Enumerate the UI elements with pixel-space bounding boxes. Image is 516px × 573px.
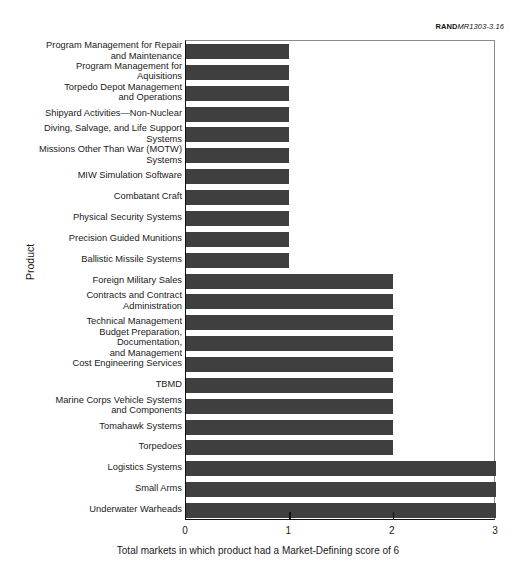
category-label: Tomahawk Systems	[36, 421, 182, 432]
bar	[186, 336, 393, 351]
category-label: Foreign Military Sales	[36, 275, 182, 286]
x-axis-tick-label: 1	[273, 525, 303, 536]
bar	[186, 294, 393, 309]
bar	[186, 399, 393, 414]
category-label: Program Management for Aquisitions	[36, 61, 182, 82]
bar	[186, 169, 289, 184]
category-label: Missions Other Than War (MOTW) Systems	[36, 144, 182, 165]
bar-chart-figure: RANDMR1303-3.16 Product Program Manageme…	[0, 0, 516, 573]
plot-area	[185, 40, 495, 520]
category-label: Contracts and Contract Administration	[36, 290, 182, 311]
x-axis-tick-label: 0	[170, 525, 200, 536]
y-axis-title: Product	[24, 244, 36, 280]
category-label: Small Arms	[36, 483, 182, 494]
category-label: Shipyard Activities—Non-Nuclear	[36, 108, 182, 119]
bar	[186, 65, 289, 80]
category-label: TBMD	[36, 379, 182, 390]
category-label: Budget Preparation, Documentation, and M…	[36, 327, 182, 359]
category-label: MIW Simulation Software	[36, 170, 182, 181]
category-label: Marine Corps Vehicle Systems and Compone…	[36, 395, 182, 416]
x-axis-tick	[289, 512, 290, 519]
bar	[186, 482, 496, 497]
x-axis-tick-label: 3	[480, 525, 510, 536]
x-axis-title: Total markets in which product had a Mar…	[0, 545, 516, 556]
bar	[186, 461, 496, 476]
category-label: Diving, Salvage, and Life Support System…	[36, 123, 182, 144]
bar	[186, 232, 289, 247]
category-label: Precision Guided Munitions	[36, 233, 182, 244]
bar	[186, 86, 289, 101]
category-label: Physical Security Systems	[36, 212, 182, 223]
bars-layer	[186, 41, 494, 519]
document-id: MR1303-3.16	[457, 22, 504, 31]
bar	[186, 357, 393, 372]
bar	[186, 211, 289, 226]
bar	[186, 274, 393, 289]
bar	[186, 148, 289, 163]
x-axis-tick	[393, 512, 394, 519]
category-label: Technical Management	[36, 316, 182, 327]
rand-logo-text: RAND	[435, 22, 457, 31]
bar	[186, 107, 289, 122]
bar	[186, 315, 393, 330]
bar	[186, 503, 496, 518]
bar	[186, 420, 393, 435]
category-label: Underwater Warheads	[36, 504, 182, 515]
bar	[186, 127, 289, 142]
source-credit: RANDMR1303-3.16	[435, 22, 504, 31]
category-label: Ballistic Missile Systems	[36, 254, 182, 265]
category-label: Torpedoes	[36, 441, 182, 452]
category-label: Torpedo Depot Management and Operations	[36, 82, 182, 103]
category-label: Logistics Systems	[36, 462, 182, 473]
bar	[186, 190, 289, 205]
bar	[186, 440, 393, 455]
x-axis-tick-label: 2	[377, 525, 407, 536]
bar	[186, 44, 289, 59]
bar	[186, 378, 393, 393]
category-label: Program Management for Repair and Mainte…	[36, 40, 182, 61]
category-label-column: Program Management for Repair and Mainte…	[36, 40, 182, 520]
bar	[186, 253, 289, 268]
category-label: Cost Engineering Services	[36, 358, 182, 369]
category-label: Combatant Craft	[36, 191, 182, 202]
